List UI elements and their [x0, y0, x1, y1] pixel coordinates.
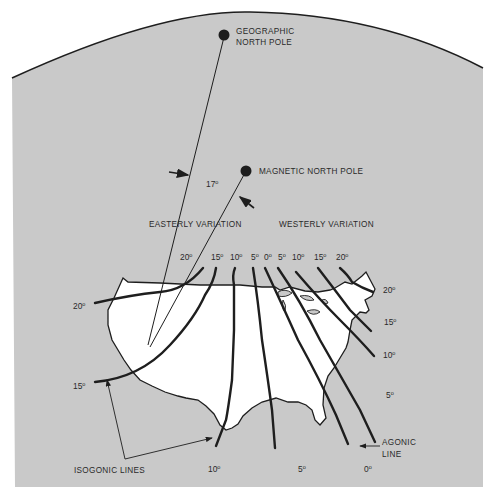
isogonic-lines-label: ISOGONIC LINES	[74, 466, 145, 475]
geographic-pole-label-1: GEOGRAPHIC	[236, 27, 295, 36]
agonic-line-label-2: LINE	[382, 450, 402, 459]
magnetic-pole-label: MAGNETIC NORTH POLE	[259, 167, 364, 176]
globe-panel	[12, 12, 483, 487]
geographic-pole-label-2: NORTH POLE	[236, 38, 292, 47]
westerly-variation-label: WESTERLY VARIATION	[279, 220, 374, 229]
magnetic-variation-diagram: GEOGRAPHIC NORTH POLE MAGNETIC NORTH POL…	[0, 0, 493, 496]
geographic-north-pole-dot	[219, 30, 230, 41]
magnetic-north-pole-dot	[241, 166, 252, 177]
agonic-line-label-1: AGONIC	[382, 438, 416, 447]
easterly-variation-label: EASTERLY VARIATION	[149, 220, 242, 229]
